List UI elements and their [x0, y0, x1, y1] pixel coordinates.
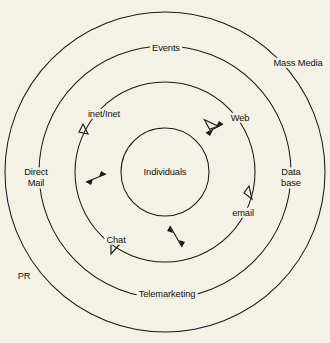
label-direct-mail-line2: Mail — [24, 178, 48, 189]
label-direct-mail-line1: Direct — [24, 167, 48, 178]
label-database-line1: Data — [281, 167, 301, 178]
double-arrow-left — [86, 171, 106, 185]
label-pr: PR — [16, 271, 33, 281]
label-individuals: Individuals — [142, 167, 189, 177]
flow-arrow-right-icon — [244, 186, 252, 199]
double-arrow-lower-middle — [167, 226, 185, 247]
label-inet: inet/Inet — [86, 109, 122, 119]
label-database: Data base — [279, 167, 303, 188]
label-database-line2: base — [281, 178, 301, 189]
label-mass-media: Mass Media — [271, 58, 324, 68]
label-events: Events — [150, 43, 182, 53]
flow-arrow-upper-left-icon — [79, 124, 88, 134]
label-chat: Chat — [104, 235, 127, 245]
diagram-canvas: Individuals Events inet/Inet Web email C… — [0, 0, 330, 343]
label-web: Web — [229, 113, 252, 123]
label-email: email — [230, 208, 256, 218]
label-telemarketing: Telemarketing — [137, 289, 198, 299]
label-direct-mail: Direct Mail — [22, 167, 50, 188]
